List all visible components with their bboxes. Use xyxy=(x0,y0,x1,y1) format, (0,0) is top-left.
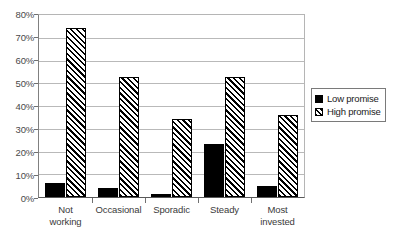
legend-label: High promise xyxy=(327,106,381,117)
y-tick-label: 10% xyxy=(16,170,34,181)
x-axis-label: Notworking xyxy=(39,204,92,228)
y-tick-label: 50% xyxy=(16,78,34,89)
x-axis-label: Mostinvested xyxy=(251,204,304,228)
bars-layer xyxy=(39,14,304,197)
bar-group xyxy=(251,14,304,197)
y-tick-label: 60% xyxy=(16,55,34,66)
x-tick-mark xyxy=(251,198,252,203)
bar-group xyxy=(92,14,145,197)
y-tick-label: 0% xyxy=(21,193,34,204)
bar-group xyxy=(145,14,198,197)
x-tick-mark xyxy=(92,198,93,203)
bar-group xyxy=(39,14,92,197)
bar-high-promise xyxy=(66,28,86,197)
x-axis-label-line: Steady xyxy=(198,204,251,216)
y-axis: 80% 70% 60% 50% 40% 30% 20% 10% 0% xyxy=(0,14,34,198)
legend-swatch-high-promise-icon xyxy=(315,108,323,116)
y-tick-label: 20% xyxy=(16,147,34,158)
x-axis-label-line: invested xyxy=(251,216,304,228)
y-tick-label: 40% xyxy=(16,101,34,112)
bar-high-promise xyxy=(119,77,139,197)
bar-high-promise xyxy=(278,115,298,197)
x-axis-label-line: working xyxy=(39,216,92,228)
legend-swatch-low-promise-icon xyxy=(315,95,323,103)
bar-low-promise xyxy=(204,144,224,197)
legend-item-low-promise: Low promise xyxy=(315,92,381,105)
y-tick-label: 30% xyxy=(16,124,34,135)
bar-low-promise xyxy=(45,183,65,197)
bar-group xyxy=(198,14,251,197)
x-axis-label-line: Occasional xyxy=(92,204,145,216)
x-axis-label-line: Sporadic xyxy=(145,204,198,216)
legend-item-high-promise: High promise xyxy=(315,105,381,118)
x-tick-mark xyxy=(198,198,199,203)
x-axis-label: Occasional xyxy=(92,204,145,216)
bar-chart: 80% 70% 60% 50% 40% 30% 20% 10% 0% xyxy=(0,0,395,242)
y-tick-label: 80% xyxy=(16,9,34,20)
chart-legend: Low promise High promise xyxy=(311,88,386,122)
bar-low-promise xyxy=(151,194,171,197)
x-axis-labels: NotworkingOccasionalSporadicSteadyMostin… xyxy=(39,204,305,242)
x-axis-label: Steady xyxy=(198,204,251,216)
x-axis-label-line: Not xyxy=(39,204,92,216)
x-axis-label-line: Most xyxy=(251,204,304,216)
bar-high-promise xyxy=(172,119,192,197)
x-tick-mark xyxy=(145,198,146,203)
bar-high-promise xyxy=(225,77,245,197)
y-tick-label: 70% xyxy=(16,32,34,43)
x-axis-label: Sporadic xyxy=(145,204,198,216)
bar-low-promise xyxy=(257,186,277,197)
bar-low-promise xyxy=(98,188,118,197)
legend-label: Low promise xyxy=(327,93,379,104)
y-tick-mark xyxy=(34,198,38,199)
